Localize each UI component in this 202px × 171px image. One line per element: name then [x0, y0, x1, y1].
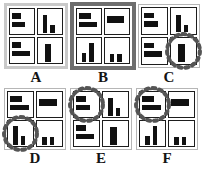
mini-bar-chart: [37, 92, 62, 117]
bar: [171, 99, 189, 107]
panel-grid: [71, 89, 131, 149]
mini-bar-chart: [38, 38, 62, 63]
bar: [76, 105, 90, 110]
bar: [12, 22, 25, 27]
chart-cell-top-left[interactable]: [139, 91, 166, 118]
panel-label-a: A: [4, 70, 68, 85]
chart-cell-top-right[interactable]: [102, 91, 129, 118]
bar: [178, 44, 185, 62]
mini-bar-chart: [74, 121, 99, 146]
bar: [12, 51, 30, 56]
bar: [10, 105, 29, 110]
mini-bar-chart: [103, 92, 128, 117]
chart-cell-top-left[interactable]: [141, 7, 168, 35]
mini-bar-chart: [142, 38, 167, 64]
bar: [144, 51, 162, 57]
chart-cell-bottom-right[interactable]: [170, 37, 197, 65]
panel-c[interactable]: [138, 4, 200, 68]
mini-bar-chart: [169, 92, 194, 117]
mini-bar-chart: [10, 38, 34, 63]
chart-cell-bottom-right[interactable]: [104, 37, 130, 64]
bar: [43, 15, 48, 32]
chart-cell-bottom-left[interactable]: [73, 120, 100, 147]
bar: [50, 25, 55, 32]
chart-cell-top-right[interactable]: [168, 91, 195, 118]
chart-cell-bottom-right[interactable]: [102, 120, 129, 147]
panel-grid: [139, 5, 199, 67]
bar: [89, 43, 94, 61]
mini-bar-chart: [171, 38, 196, 64]
bar: [82, 53, 87, 62]
panel-label-d: D: [4, 151, 66, 166]
mini-bar-chart: [10, 9, 34, 34]
bar: [12, 13, 21, 18]
mini-bar-chart: [171, 8, 196, 34]
panel-label-f: F: [136, 151, 198, 166]
panel-d[interactable]: [4, 88, 66, 150]
bar: [76, 134, 94, 139]
panel-label-b: B: [70, 70, 136, 85]
bar: [174, 137, 179, 145]
bar: [144, 43, 154, 49]
bar: [142, 96, 154, 101]
bar: [12, 42, 21, 47]
panel-f[interactable]: [136, 88, 198, 150]
panel-grid: [5, 89, 65, 149]
panel-b[interactable]: [70, 2, 136, 70]
bar: [13, 126, 18, 144]
panel-label-c: C: [138, 70, 200, 85]
chart-cell-top-right[interactable]: [104, 8, 130, 35]
chart-cell-bottom-right[interactable]: [36, 120, 63, 147]
chart-cell-bottom-left[interactable]: [7, 120, 34, 147]
panel-a[interactable]: [4, 3, 68, 69]
bar: [110, 127, 117, 145]
bar: [76, 125, 86, 130]
mini-bar-chart: [105, 9, 129, 34]
bar: [142, 105, 161, 110]
chart-cell-top-right[interactable]: [170, 7, 197, 35]
mini-bar-chart: [37, 121, 62, 146]
mini-bar-chart: [105, 38, 129, 63]
chart-cell-top-right[interactable]: [36, 91, 63, 118]
panel-label-e: E: [70, 151, 132, 166]
bar: [45, 44, 52, 62]
panel-grid: [7, 6, 65, 66]
chart-cell-top-left[interactable]: [9, 8, 35, 35]
bar: [50, 137, 55, 145]
chart-cell-bottom-left[interactable]: [141, 37, 168, 65]
panel-e[interactable]: [70, 88, 132, 150]
mini-bar-chart: [38, 9, 62, 34]
bar: [79, 13, 91, 18]
mini-bar-chart: [77, 38, 101, 63]
chart-cell-bottom-right[interactable]: [37, 37, 63, 64]
chart-cell-top-right[interactable]: [37, 8, 63, 35]
chart-cell-bottom-right[interactable]: [168, 120, 195, 147]
bar: [184, 25, 189, 32]
bar: [145, 136, 150, 145]
bar: [76, 96, 86, 101]
panel-grid: [137, 89, 197, 149]
bar: [79, 22, 98, 27]
bar: [10, 96, 22, 101]
mini-bar-chart: [8, 92, 33, 117]
bar: [144, 21, 158, 27]
panel-figure: ABCDEF: [0, 0, 202, 171]
chart-cell-top-left[interactable]: [73, 91, 100, 118]
panel-grid: [74, 6, 132, 66]
chart-cell-bottom-left[interactable]: [9, 37, 35, 64]
bar: [110, 54, 115, 62]
bar: [21, 136, 26, 145]
mini-bar-chart: [8, 121, 33, 146]
mini-bar-chart: [77, 9, 101, 34]
bar: [116, 108, 121, 115]
bar: [144, 13, 154, 19]
mini-bar-chart: [140, 121, 165, 146]
mini-bar-chart: [140, 92, 165, 117]
chart-cell-bottom-left[interactable]: [139, 120, 166, 147]
chart-cell-top-left[interactable]: [76, 8, 102, 35]
bar: [182, 137, 187, 145]
chart-cell-bottom-left[interactable]: [76, 37, 102, 64]
chart-cell-top-left[interactable]: [7, 91, 34, 118]
bar: [39, 99, 57, 107]
bar: [176, 15, 181, 33]
